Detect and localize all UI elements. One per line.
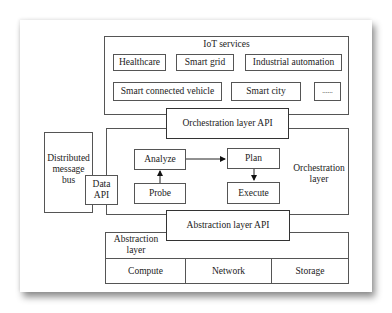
service-smart-city: Smart city: [231, 82, 301, 101]
abstraction-layer-title-line1: Abstraction: [108, 234, 164, 245]
message-bus-line2: message: [52, 164, 84, 175]
abstraction-layer-title-line2: layer: [108, 245, 164, 256]
orchestration-layer-title: Orchestration layer: [290, 163, 348, 186]
data-api-line1: Data: [93, 179, 111, 190]
message-bus-line1: Distributed: [47, 153, 90, 164]
resource-compute: Compute: [105, 258, 186, 284]
orchestration-layer-title-line2: layer: [290, 174, 348, 185]
message-bus-line3: bus: [62, 175, 75, 186]
service-smart-grid: Smart grid: [176, 54, 234, 71]
data-api-line2: API: [94, 190, 109, 201]
node-analyze: Analyze: [134, 149, 186, 170]
resource-network: Network: [185, 258, 272, 284]
orchestration-layer-api: Orchestration layer API: [166, 108, 289, 139]
node-plan: Plan: [227, 148, 280, 169]
resource-storage: Storage: [271, 258, 349, 284]
iot-services-title: IoT services: [104, 39, 349, 50]
abstraction-layer-api: Abstraction layer API: [166, 210, 290, 241]
service-industrial-automation: Industrial automation: [245, 54, 342, 71]
data-api: Data API: [85, 175, 118, 205]
service-smart-connected-vehicle: Smart connected vehicle: [113, 82, 222, 101]
node-probe: Probe: [134, 183, 186, 204]
node-execute: Execute: [227, 182, 280, 204]
orchestration-layer-title-line1: Orchestration: [290, 163, 348, 174]
abstraction-layer-title: Abstraction layer: [108, 234, 164, 257]
service-healthcare: Healthcare: [113, 54, 166, 71]
service-more: ......: [314, 82, 341, 101]
